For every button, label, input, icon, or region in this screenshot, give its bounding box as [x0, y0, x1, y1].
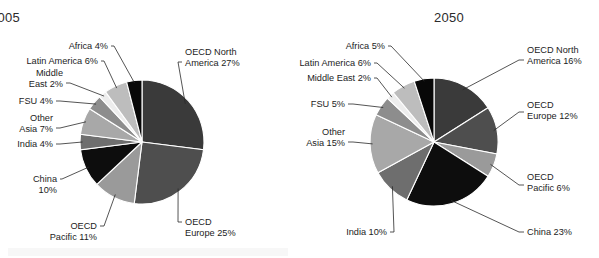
callout-line-1: OECD: [185, 217, 212, 227]
slice-callout-label: OECDPacific 6%: [527, 172, 570, 193]
callout-line-1: OECD: [527, 100, 554, 110]
slice-callout-label: India 4%: [17, 139, 53, 149]
callout-line-2: America 27%: [185, 58, 240, 68]
slice-callout-label: MiddleEast 2%: [29, 68, 63, 89]
callout-line-1: Latin America 6%: [27, 56, 99, 66]
leader-line: [178, 189, 182, 223]
slice-callout-label: OECDEurope 12%: [527, 100, 578, 121]
callout-line-1: Latin America 6%: [300, 58, 372, 68]
slice-callout-label: Africa 5%: [346, 41, 385, 51]
callout-line-2: Asia 7%: [19, 124, 53, 134]
leader-line: [390, 186, 394, 232]
slice-callout-label: OECD NorthAmerica 27%: [185, 47, 240, 68]
callout-line-1: FSU 5%: [311, 99, 345, 109]
chart-panel-2050: 2050 OECD North America 16%OECD Europe 1…: [299, 0, 599, 258]
callout-line-2: Europe 25%: [185, 228, 236, 238]
leader-line: [494, 112, 524, 131]
slice-callout-label: Africa 4%: [69, 41, 108, 51]
leader-line: [56, 101, 96, 104]
callout-line-2: East 2%: [29, 79, 63, 89]
callout-line-2: Europe 12%: [527, 111, 578, 121]
leader-line: [60, 167, 89, 179]
leader-line: [374, 63, 404, 88]
leader-line: [348, 142, 373, 144]
figure-caption-strip: [8, 248, 288, 256]
leader-line: [101, 61, 117, 88]
callout-line-2: America 16%: [527, 56, 582, 66]
callout-line-1: Middle East 2%: [307, 73, 371, 83]
callout-line-1: OECD North: [185, 47, 237, 57]
slice-callout-label: FSU 5%: [311, 99, 345, 109]
slice-callout-label: OtherAsia 7%: [19, 113, 53, 134]
callout-line-1: China 23%: [527, 227, 572, 237]
callout-line-1: Africa 5%: [346, 41, 385, 51]
callout-line-1: India 4%: [17, 139, 53, 149]
slice-callout-label: OECD NorthAmerica 16%: [527, 45, 582, 66]
leader-line: [374, 78, 392, 97]
callout-line-1: Other: [322, 127, 345, 137]
callout-line-1: Other: [30, 113, 53, 123]
leader-line: [388, 46, 424, 81]
leader-line: [111, 46, 135, 83]
callout-line-1: Middle: [36, 68, 63, 78]
chart-panel-2005: 2005 OECD North America 27%OECD Europe 2…: [0, 0, 300, 258]
callout-line-1: FSU 4%: [19, 96, 53, 106]
pie-chart-figure: 2005 OECD North America 27%OECD Europe 2…: [0, 0, 599, 258]
leader-line: [463, 60, 524, 90]
pie-slice[interactable]: OECD North America 27%: [142, 80, 204, 150]
callout-line-1: OECD North: [527, 45, 579, 55]
callout-line-2: Pacific 6%: [527, 183, 570, 193]
callout-line-1: OECD: [527, 172, 554, 182]
pie-slices-group: OECD North America 27%OECD Europe 25%OEC…: [80, 80, 204, 204]
callout-line-1: Africa 4%: [69, 41, 108, 51]
slice-callout-label: China10%: [33, 174, 58, 195]
slice-callout-label: OECDPacific 11%: [50, 221, 98, 242]
pie-canvas-2050: OECD North America 16%OECD Europe 12%OEC…: [299, 0, 599, 258]
slice-callout-label: OtherAsia 15%: [306, 127, 345, 148]
slice-callout-label: Latin America 6%: [27, 56, 99, 66]
pie-slice[interactable]: OECD Europe 25%: [134, 142, 203, 204]
leader-line: [56, 142, 83, 144]
pie-slices-group: OECD North America 16%OECD Europe 12%OEC…: [370, 78, 498, 206]
slice-callout-label: India 10%: [346, 227, 387, 237]
callout-line-1: India 10%: [346, 227, 387, 237]
slice-callout-label: China 23%: [527, 227, 572, 237]
leader-line: [348, 104, 383, 108]
leader-line: [451, 200, 524, 232]
slice-callout-label: OECDEurope 25%: [185, 217, 236, 238]
callout-line-1: OECD: [70, 221, 97, 231]
slice-callout-label: Latin America 6%: [300, 58, 372, 68]
slice-callout-label: FSU 4%: [19, 96, 53, 106]
leader-line: [66, 83, 104, 96]
leader-line: [100, 195, 115, 227]
callout-line-1: China: [33, 174, 58, 184]
pie-canvas-2005: OECD North America 27%OECD Europe 25%OEC…: [0, 0, 300, 258]
slice-callout-label: Middle East 2%: [307, 73, 371, 83]
callout-line-2: Pacific 11%: [50, 232, 97, 242]
callout-line-2: 10%: [39, 185, 57, 195]
callout-line-2: Asia 15%: [306, 138, 345, 148]
leader-line: [491, 164, 525, 185]
